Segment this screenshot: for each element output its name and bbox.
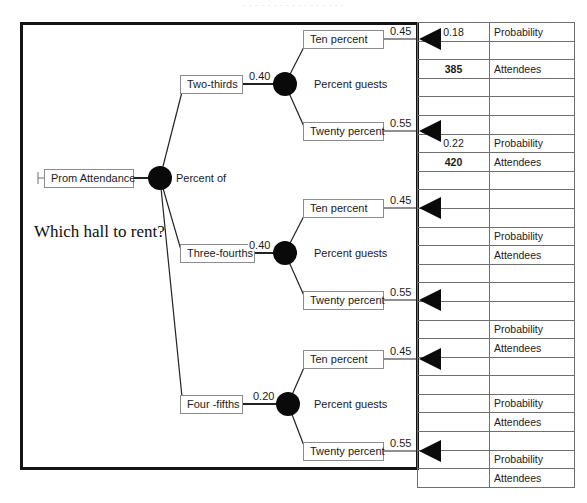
payoff-table: 0.18Probability385Attendees0.22Probabili… bbox=[417, 22, 575, 488]
chance-node-branch-1[interactable] bbox=[273, 72, 297, 96]
payoff-label-cell bbox=[490, 208, 575, 227]
prob-ten-percent-2: 0.45 bbox=[389, 194, 412, 206]
payoff-label-cell: Probability bbox=[490, 134, 575, 153]
table-row bbox=[418, 41, 575, 60]
payoff-value-cell bbox=[418, 171, 490, 190]
payoff-label-cell: Attendees bbox=[490, 246, 575, 265]
node-ten-percent-1[interactable]: Ten percent bbox=[303, 30, 384, 49]
root-chance-node[interactable] bbox=[148, 166, 172, 190]
payoff-label-cell: Probability bbox=[490, 394, 575, 413]
prob-ten-percent-1: 0.45 bbox=[389, 25, 412, 37]
payoff-label-cell: Probability bbox=[490, 320, 575, 339]
payoff-value-cell bbox=[418, 264, 490, 283]
node-four-fifths[interactable]: Four -fifths bbox=[180, 395, 243, 414]
outcome-arrow-icon bbox=[419, 348, 441, 370]
table-row bbox=[418, 357, 575, 376]
payoff-label-cell bbox=[490, 78, 575, 97]
node-twenty-percent-2[interactable]: Twenty percent bbox=[303, 291, 384, 310]
table-row bbox=[418, 283, 575, 302]
payoff-value-cell bbox=[418, 78, 490, 97]
payoff-value-cell bbox=[418, 394, 490, 413]
node-ten-percent-3[interactable]: Ten percent bbox=[303, 350, 384, 369]
node-twenty-percent-3[interactable]: Twenty percent bbox=[303, 442, 384, 461]
node-two-thirds[interactable]: Two-thirds bbox=[180, 75, 243, 94]
prob-ten-percent-3: 0.45 bbox=[389, 345, 412, 357]
table-row bbox=[418, 97, 575, 116]
payoff-label-cell bbox=[490, 171, 575, 190]
node-twenty-percent-3-label: Twenty percent bbox=[310, 446, 385, 457]
table-row: Probability bbox=[418, 320, 575, 339]
payoff-label-cell bbox=[490, 432, 575, 451]
payoff-label-cell bbox=[490, 264, 575, 283]
table-row bbox=[418, 190, 575, 209]
cut-off-header-text: · · · · · · · · · · · · · · · · · bbox=[0, 0, 587, 20]
prob-two-thirds: 0.40 bbox=[248, 70, 271, 82]
payoff-value-cell bbox=[418, 376, 490, 395]
payoff-label-cell: Attendees bbox=[490, 413, 575, 432]
payoff-label-cell bbox=[490, 115, 575, 134]
table-row: Attendees bbox=[418, 339, 575, 358]
table-row bbox=[418, 432, 575, 451]
payoff-label-cell bbox=[490, 97, 575, 116]
outcome-arrow-icon bbox=[419, 120, 441, 142]
payoff-value-cell bbox=[418, 97, 490, 116]
root-node-caption: Percent of bbox=[176, 172, 226, 184]
prob-three-fourths: 0.40 bbox=[248, 239, 271, 251]
prob-four-fifths: 0.20 bbox=[252, 390, 275, 402]
payoff-label-cell: Attendees bbox=[490, 339, 575, 358]
table-row bbox=[418, 78, 575, 97]
node-twenty-percent-1[interactable]: Twenty percent bbox=[303, 122, 384, 141]
node-twenty-percent-1-label: Twenty percent bbox=[310, 126, 385, 137]
table-row bbox=[418, 264, 575, 283]
table-row bbox=[418, 301, 575, 320]
table-row: Attendees bbox=[418, 413, 575, 432]
table-row: Attendees bbox=[418, 246, 575, 265]
table-row: Attendees bbox=[418, 469, 575, 488]
payoff-value-cell bbox=[418, 246, 490, 265]
diagram-canvas: · · · · · · · · · · · · · · · · · bbox=[0, 0, 587, 503]
payoff-value-cell bbox=[418, 413, 490, 432]
payoff-label-cell bbox=[490, 301, 575, 320]
outcome-arrow-icon bbox=[419, 289, 441, 311]
payoff-label-cell: Attendees bbox=[490, 60, 575, 79]
payoff-label-cell: Attendees bbox=[490, 153, 575, 172]
node-ten-percent-2[interactable]: Ten percent bbox=[303, 199, 384, 218]
table-row: 385Attendees bbox=[418, 60, 575, 79]
node-prom-attendance-label: Prom Attendance bbox=[51, 173, 135, 184]
node-two-thirds-label: Two-thirds bbox=[187, 79, 238, 90]
node-twenty-percent-2-label: Twenty percent bbox=[310, 295, 385, 306]
payoff-label-cell: Attendees bbox=[490, 469, 575, 488]
payoff-value-cell bbox=[418, 320, 490, 339]
payoff-label-cell bbox=[490, 376, 575, 395]
payoff-value-cell bbox=[418, 227, 490, 246]
payoff-label-cell bbox=[490, 283, 575, 302]
chance-node-branch-2[interactable] bbox=[273, 241, 297, 265]
outcome-arrow-icon bbox=[419, 28, 441, 50]
payoff-value-cell: 385 bbox=[418, 60, 490, 79]
payoff-label-cell bbox=[490, 41, 575, 60]
node-four-fifths-label: Four -fifths bbox=[187, 399, 240, 410]
payoff-label-cell: Probability bbox=[490, 23, 575, 42]
caption-percent-guests-1: Percent guests bbox=[314, 78, 387, 90]
caption-percent-guests-2: Percent guests bbox=[314, 247, 387, 259]
payoff-label-cell: Probability bbox=[490, 227, 575, 246]
table-row: Probability bbox=[418, 450, 575, 469]
node-three-fourths[interactable]: Three-fourths bbox=[180, 244, 255, 263]
outcome-arrow-icon bbox=[419, 197, 441, 219]
payoff-label-cell: Probability bbox=[490, 450, 575, 469]
node-ten-percent-2-label: Ten percent bbox=[310, 203, 367, 214]
node-ten-percent-1-label: Ten percent bbox=[310, 34, 367, 45]
payoff-label-cell bbox=[490, 190, 575, 209]
table-row: 420Attendees bbox=[418, 153, 575, 172]
table-row bbox=[418, 171, 575, 190]
node-prom-attendance[interactable]: Prom Attendance bbox=[44, 169, 134, 188]
question-text: Which hall to rent? bbox=[34, 222, 165, 242]
node-three-fourths-label: Three-fourths bbox=[187, 248, 253, 259]
table-row: 0.22Probability bbox=[418, 134, 575, 153]
prob-twenty-percent-1: 0.55 bbox=[389, 117, 412, 129]
table-row bbox=[418, 208, 575, 227]
payoff-table-body: 0.18Probability385Attendees0.22Probabili… bbox=[418, 23, 575, 488]
table-row: 0.18Probability bbox=[418, 23, 575, 42]
table-row bbox=[418, 376, 575, 395]
chance-node-branch-3[interactable] bbox=[276, 392, 300, 416]
